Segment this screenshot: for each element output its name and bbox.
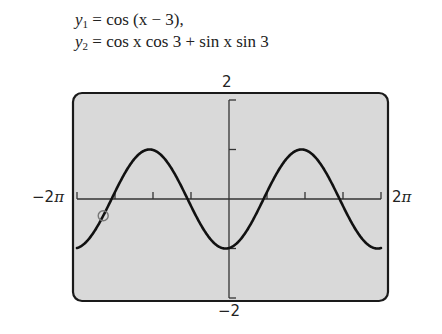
screen-frame: [73, 93, 388, 301]
graphing-calculator-screen: [0, 0, 442, 334]
